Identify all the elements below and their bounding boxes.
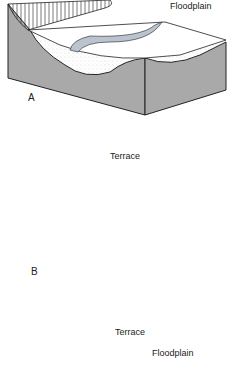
- label-floodplain-a: Floodplain: [170, 1, 212, 11]
- label-terrace-c: Terrace: [115, 327, 145, 337]
- diagram-canvas: [0, 0, 234, 380]
- label-terrace-b: Terrace: [110, 151, 140, 161]
- label-floodplain-c: Floodplain: [152, 348, 194, 358]
- panel-letter-a: A: [28, 92, 35, 103]
- panel-letter-b: B: [31, 266, 38, 277]
- panel-a-block: [8, 0, 226, 115]
